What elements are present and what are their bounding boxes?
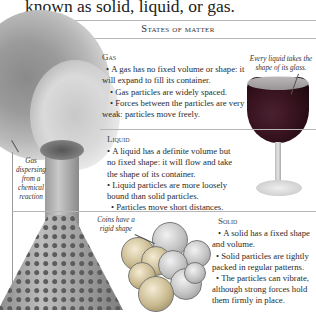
gas-heading: Gas [102, 52, 252, 63]
liquid-bullet: Liquid particles are more loosely bound … [107, 180, 235, 202]
solid-bullet: A solid has a fixed shape and volume. [212, 228, 316, 250]
glass-foot [256, 180, 302, 196]
gas-bullet: Forces between the particles are very we… [102, 98, 252, 120]
liquid-bullet: A liquid has a definite volume but no fi… [107, 146, 235, 180]
liquid-section: Liquid A liquid has a definite volume bu… [107, 134, 235, 213]
title-underline-rule [72, 38, 316, 39]
liquid-heading: Liquid [107, 134, 235, 145]
gas-caption: Gas dispersing from a chemical reaction [12, 157, 50, 202]
solid-section: Solid A solid has a fixed shape and volu… [212, 216, 316, 307]
solid-bullet: The particles can vibrate, although stro… [212, 273, 316, 307]
gas-bullet: Gas particles are widely spaced. [102, 87, 252, 98]
glass-stem [275, 142, 281, 184]
solid-heading: Solid [212, 216, 316, 227]
glass-rim [247, 76, 309, 90]
gas-bullet: A gas has no fixed volume or shape: it w… [102, 64, 252, 86]
liquid-solid-divider [12, 211, 316, 212]
gas-section: Gas A gas has no fixed volume or shape: … [102, 52, 252, 120]
coin [138, 276, 174, 312]
coins-caption: Coins have a rigid shape [92, 216, 140, 234]
solid-bullet: Solid particles are tightly packed in re… [212, 251, 316, 273]
gas-liquid-divider [100, 129, 316, 130]
coin [184, 262, 206, 284]
glass-caption: Every liquid takes the shape of its glas… [246, 55, 316, 73]
panel-top-rule [40, 20, 316, 21]
